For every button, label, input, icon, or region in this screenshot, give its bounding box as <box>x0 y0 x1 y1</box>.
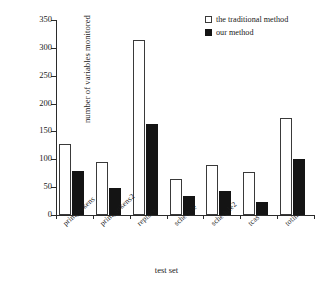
bar-traditional <box>96 162 108 215</box>
y-tick-label: 100 <box>39 153 52 164</box>
x-tick-mark <box>130 215 131 219</box>
bar-chart-figure: the traditional method our method number… <box>0 0 333 285</box>
x-tick-mark <box>240 215 241 219</box>
y-tick-label: 300 <box>39 42 52 53</box>
bar-traditional <box>170 179 182 215</box>
bar-traditional <box>133 40 145 216</box>
y-tick-label: 50 <box>44 181 53 192</box>
bar-group <box>206 20 231 215</box>
bar-group <box>170 20 195 215</box>
x-axis-title: test set <box>0 265 333 275</box>
x-tick-mark <box>56 215 57 219</box>
x-tick-mark <box>314 215 315 219</box>
x-tick-mark <box>93 215 94 219</box>
bar-group <box>96 20 121 215</box>
y-tick-label: 350 <box>39 14 52 25</box>
bar-traditional <box>243 172 255 215</box>
x-tick-mark <box>167 215 168 219</box>
plot-area: 050100150200250300350 <box>56 20 314 215</box>
bar-ours <box>146 124 158 215</box>
y-tick-label: 0 <box>48 209 52 220</box>
bar-traditional <box>206 165 218 215</box>
bar-group <box>133 20 158 215</box>
bar-traditional <box>280 118 292 216</box>
bar-group <box>59 20 84 215</box>
bar-group <box>280 20 305 215</box>
x-tick-mark <box>277 215 278 219</box>
bar-traditional <box>59 144 71 215</box>
y-tick-label: 150 <box>39 125 52 136</box>
y-tick-label: 200 <box>39 98 52 109</box>
y-tick-label: 250 <box>39 70 52 81</box>
x-tick-mark <box>203 215 204 219</box>
bar-group <box>243 20 268 215</box>
bar-ours <box>256 202 268 215</box>
